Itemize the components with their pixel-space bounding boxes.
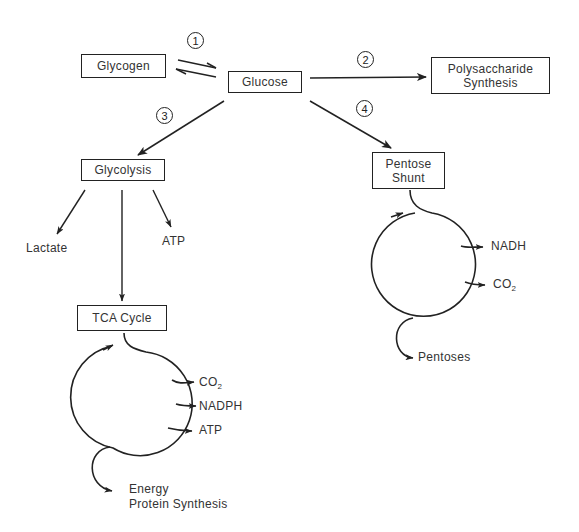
product-pentose-nadh: NADH <box>491 239 526 254</box>
step-2-badge: 2 <box>357 51 374 68</box>
co2-subscript: 2 <box>512 284 517 293</box>
tca-cycle-loop <box>71 333 196 491</box>
arrow-glycolysis-to-atp <box>153 190 171 227</box>
arrow-glycolysis-to-lactate <box>57 190 85 234</box>
co2-base: CO <box>199 375 218 389</box>
step-1-badge: 1 <box>187 32 204 49</box>
node-polysaccharide-label-line1: Polysaccharide <box>448 62 534 76</box>
step-3-badge: 3 <box>156 107 173 124</box>
product-lactate: Lactate <box>26 241 67 256</box>
node-glycogen-label: Glycogen <box>97 59 150 73</box>
arrow-glucose-to-polysaccharide <box>310 77 426 78</box>
product-tca-atp: ATP <box>199 423 222 438</box>
node-pentose-shunt: Pentose Shunt <box>372 152 445 189</box>
arrow-glucose-to-glycolysis <box>138 101 224 155</box>
product-pentoses: Pentoses <box>418 350 470 365</box>
node-glycolysis: Glycolysis <box>81 159 165 181</box>
co2-subscript: 2 <box>218 382 223 391</box>
node-glucose: Glucose <box>228 71 302 93</box>
node-polysaccharide-synthesis: Polysaccharide Synthesis <box>431 57 550 94</box>
product-energy: Energy Protein Synthesis <box>129 482 227 512</box>
reversible-arrow-glycogen-glucose <box>176 60 216 77</box>
product-glycolysis-atp: ATP <box>162 234 185 249</box>
node-glucose-label: Glucose <box>242 75 288 89</box>
product-pentose-co2: CO2 <box>493 277 516 292</box>
node-tca-label: TCA Cycle <box>92 311 151 325</box>
product-tca-nadph: NADPH <box>199 399 243 414</box>
step-3-number: 3 <box>161 110 167 122</box>
product-tca-co2: CO2 <box>199 375 222 390</box>
protein-synthesis-label: Protein Synthesis <box>129 497 227 511</box>
node-glycogen: Glycogen <box>81 54 166 78</box>
arrow-glucose-to-pentose <box>310 101 391 148</box>
step-1-number: 1 <box>192 35 198 47</box>
pentose-shunt-loop <box>372 190 486 358</box>
co2-base: CO <box>493 277 512 291</box>
step-4-badge: 4 <box>356 100 373 117</box>
node-polysaccharide-label-line2: Synthesis <box>463 76 518 90</box>
node-pentose-label-line2: Shunt <box>392 171 425 185</box>
node-glycolysis-label: Glycolysis <box>94 163 151 177</box>
energy-label: Energy <box>129 482 169 496</box>
node-tca-cycle: TCA Cycle <box>77 305 167 331</box>
node-pentose-label-line1: Pentose <box>385 157 431 171</box>
step-4-number: 4 <box>361 103 367 115</box>
step-2-number: 2 <box>362 54 368 66</box>
glucose-metabolism-diagram: Glycogen Glucose Polysaccharide Synthesi… <box>0 0 579 532</box>
